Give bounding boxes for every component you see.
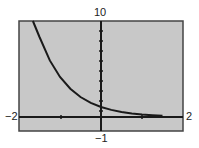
xmin-label: −2 [5, 111, 18, 122]
ymin-label: −1 [95, 133, 108, 144]
xmax-label: 2 [186, 111, 192, 122]
ymax-label: 10 [94, 7, 106, 18]
graph-screen [0, 0, 199, 148]
